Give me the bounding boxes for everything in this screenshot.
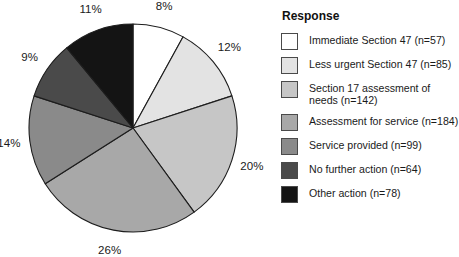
pie-slice-percentage-label: 26% xyxy=(98,245,121,257)
legend-item[interactable]: Section 17 assessment of needs (n=142) xyxy=(281,81,459,107)
pie-svg xyxy=(27,22,239,234)
pie-slice-percentage-label: 12% xyxy=(218,43,241,55)
legend: Response Immediate Section 47 (n=57)Less… xyxy=(281,10,459,210)
pie-slice-percentage-label: 14% xyxy=(0,138,21,150)
legend-color-swatch xyxy=(281,138,298,155)
legend-item[interactable]: Immediate Section 47 (n=57) xyxy=(281,33,459,50)
pie-slice-percentage-label: 9% xyxy=(21,52,38,64)
legend-title: Response xyxy=(282,10,459,22)
legend-color-swatch xyxy=(281,33,298,50)
legend-item-label: No further action (n=64) xyxy=(309,162,421,175)
legend-item-label: Service provided (n=99) xyxy=(309,138,422,151)
legend-item-label: Other action (n=78) xyxy=(309,186,401,199)
pie-plot-area: 8%12%20%26%14%9%11% xyxy=(0,0,266,247)
legend-item[interactable]: Other action (n=78) xyxy=(281,186,459,203)
legend-color-swatch xyxy=(281,57,298,74)
pie-slice-percentage-label: 11% xyxy=(79,5,101,17)
legend-item-label: Immediate Section 47 (n=57) xyxy=(309,33,445,46)
legend-color-swatch xyxy=(281,162,298,179)
legend-item-label: Less urgent Section 47 (n=85) xyxy=(309,57,451,70)
legend-color-swatch xyxy=(281,186,298,203)
legend-item-label: Section 17 assessment of needs (n=142) xyxy=(309,81,459,107)
legend-item[interactable]: No further action (n=64) xyxy=(281,162,459,179)
legend-item[interactable]: Service provided (n=99) xyxy=(281,138,459,155)
legend-item-label: Assessment for service (n=184) xyxy=(309,114,458,127)
legend-color-swatch xyxy=(281,81,298,98)
pie-slice-percentage-label: 20% xyxy=(240,161,263,173)
legend-color-swatch xyxy=(281,114,298,131)
pie-slice-percentage-label: 8% xyxy=(156,1,173,13)
legend-items: Immediate Section 47 (n=57)Less urgent S… xyxy=(281,33,459,203)
legend-item[interactable]: Less urgent Section 47 (n=85) xyxy=(281,57,459,74)
legend-item[interactable]: Assessment for service (n=184) xyxy=(281,114,459,131)
